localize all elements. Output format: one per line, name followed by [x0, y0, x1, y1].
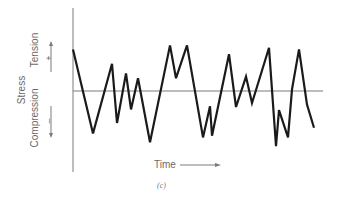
- minus-sign: –: [44, 118, 54, 123]
- x-axis-label: Time: [154, 159, 176, 170]
- y-axis-label: Stress: [16, 76, 27, 104]
- compression-label: Compression: [29, 89, 40, 148]
- figure-caption: (c): [157, 181, 166, 190]
- stress-curve: [73, 45, 314, 146]
- arrow-right-icon: [180, 163, 221, 167]
- plus-sign: +: [44, 55, 54, 60]
- stress-time-diagram: Stress Tension Compression + – Time (c): [0, 0, 340, 198]
- tension-label: Tension: [29, 33, 40, 67]
